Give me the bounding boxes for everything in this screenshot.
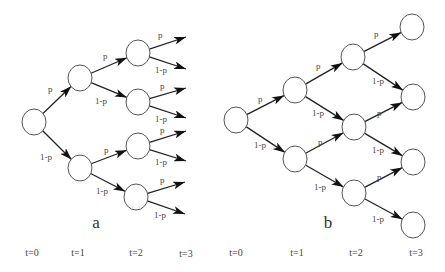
edge-probability-label: p <box>316 61 321 71</box>
edge-arrow <box>305 96 344 120</box>
edge-probability-label: 1-p <box>312 108 324 118</box>
state-node <box>68 155 92 181</box>
time-step-label: t=1 <box>71 247 84 258</box>
edge-probability-label: 1-p <box>372 214 384 224</box>
state-node <box>283 77 307 103</box>
edge-probability-label: 1-p <box>254 140 266 150</box>
edge-arrow <box>306 133 344 154</box>
time-step-label: t=2 <box>129 247 142 258</box>
edge-probability-label: 1-p <box>40 152 52 162</box>
state-node <box>342 180 366 206</box>
edge-probability-label: p <box>160 81 165 91</box>
state-node <box>400 14 424 40</box>
edge-probability-label: 1-p <box>314 182 326 192</box>
edge-probability-label: p <box>374 29 379 39</box>
leaf-edge-arrow <box>150 88 186 99</box>
edge-probability-label: 1-p <box>95 96 107 106</box>
state-node <box>342 114 366 140</box>
edge-probability-label: 1-p <box>154 210 166 220</box>
edge-probability-label: p <box>104 145 109 155</box>
tree-caption: a <box>92 213 100 232</box>
edge-probability-label: 1-p <box>155 65 167 75</box>
state-node <box>401 212 425 238</box>
edge-probability-label: p <box>318 137 323 147</box>
diagram-canvas: p1-pp1-pp1-pp1-pp1-pp1-pp1-pat=0t=1t=2t=… <box>0 0 445 272</box>
state-node <box>124 184 148 210</box>
edge-arrow <box>365 168 403 188</box>
time-step-label: t=0 <box>229 247 242 258</box>
edge-arrow <box>43 86 72 113</box>
edge-arrow <box>247 95 285 114</box>
state-node <box>22 109 46 135</box>
state-node <box>341 44 365 70</box>
time-step-label: t=3 <box>179 248 192 259</box>
edge-probability-label: p <box>158 30 163 40</box>
edge-probability-label: 1-p <box>155 114 167 124</box>
state-node <box>401 84 425 110</box>
edge-probability-label: p <box>377 172 382 182</box>
leaf-edge-arrow <box>149 131 186 142</box>
state-node <box>224 107 248 133</box>
time-step-label: t=1 <box>290 247 303 258</box>
time-step-label: t=2 <box>349 247 362 258</box>
edge-arrow <box>91 58 127 74</box>
edge-arrow <box>365 102 403 121</box>
state-node <box>126 89 150 115</box>
edge-probability-label: p <box>48 84 53 94</box>
tree-b: p1-pp1-pp1-pp1-pp1-pp1-pbt=0t=1t=2t=3 <box>224 14 425 258</box>
time-step-label: t=3 <box>409 247 422 258</box>
edge-probability-label: 1-p <box>155 157 167 167</box>
edge-probability-label: p <box>160 175 165 185</box>
edge-probability-label: 1-p <box>96 186 108 196</box>
edge-arrow <box>364 32 402 51</box>
binomial-tree-figure: p1-pp1-pp1-pp1-pp1-pp1-pp1-pat=0t=1t=2t=… <box>0 0 445 272</box>
edge-probability-label: 1-p <box>372 76 384 86</box>
edge-probability-label: p <box>377 108 382 118</box>
time-step-label: t=0 <box>25 247 38 258</box>
edge-probability-label: p <box>258 94 263 104</box>
leaf-edge-arrow <box>149 37 186 49</box>
state-node <box>68 65 92 91</box>
state-node <box>401 149 425 175</box>
state-node <box>283 146 307 172</box>
state-node <box>126 133 150 159</box>
leaf-edge-arrow <box>147 182 185 193</box>
tree-a: p1-pp1-pp1-pp1-pp1-pp1-pp1-pat=0t=1t=2t=… <box>22 30 193 259</box>
edge-arrow <box>305 63 342 84</box>
tree-caption: b <box>324 213 333 232</box>
edge-probability-label: p <box>103 51 108 61</box>
edge-probability-label: 1-p <box>372 145 384 155</box>
edge-arrow <box>91 150 127 163</box>
leaf-edge-arrow <box>147 201 185 214</box>
edge-probability-label: p <box>160 125 165 135</box>
state-node <box>126 40 150 66</box>
